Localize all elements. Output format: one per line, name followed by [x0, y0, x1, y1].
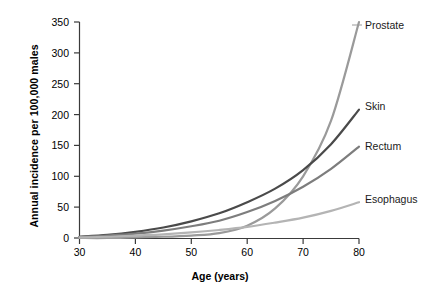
y-tick-label-100: 100 [39, 171, 69, 182]
series-curve-prostate [80, 22, 360, 238]
y-tick-label-150: 150 [39, 140, 69, 151]
x-tick-label-50: 50 [176, 247, 206, 258]
y-tick-label-250: 250 [39, 79, 69, 90]
x-tick-label-70: 70 [288, 247, 318, 258]
y-tick-label-350: 350 [39, 17, 69, 28]
x-tick-label-80: 80 [344, 247, 374, 258]
series-curves [80, 22, 360, 238]
x-tick-label-30: 30 [65, 247, 95, 258]
series-curve-rectum [80, 147, 360, 237]
x-axis-title: Age (years) [80, 270, 360, 282]
series-curve-skin [80, 110, 360, 237]
series-label-skin: Skin [365, 100, 385, 112]
x-tick-label-40: 40 [120, 247, 150, 258]
x-tick-label-60: 60 [232, 247, 262, 258]
y-tick-label-200: 200 [39, 110, 69, 121]
y-tick-label-300: 300 [39, 48, 69, 59]
y-tick-label-0: 0 [39, 233, 69, 244]
series-label-rectum: Rectum [365, 140, 401, 152]
series-label-prostate: Prostate [365, 19, 404, 31]
incidence-by-age-chart: 350 300 250 200 150 100 50 0 30 40 50 60… [0, 0, 438, 295]
y-axis-title: Annual incidence per 100,000 males [28, 31, 40, 241]
x-axis-ticks [80, 239, 360, 245]
y-tick-label-50: 50 [39, 202, 69, 213]
series-label-esophagus: Esophagus [365, 193, 418, 205]
y-axis-ticks [74, 22, 80, 238]
